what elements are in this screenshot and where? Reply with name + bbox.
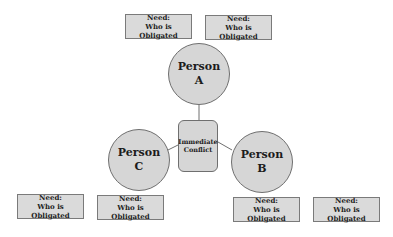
person-c-node: Person C [108, 129, 170, 191]
need-label: Need: [119, 194, 142, 203]
need-label: Need: [255, 196, 278, 205]
connector-b-conflict [218, 142, 232, 150]
person-label: Person [118, 146, 160, 160]
conflict-diagram: Need: Who is Obligated Need: Who is Obli… [0, 0, 393, 237]
person-id: C [135, 160, 144, 174]
person-id: A [195, 74, 204, 88]
need-box-b-left: Need: Who is Obligated [233, 197, 300, 222]
need-label: Need: [227, 14, 250, 23]
need-label: Need: [39, 193, 62, 202]
immediate-conflict-node: Immediate Conflict [178, 120, 218, 172]
need-label: Need: [147, 13, 170, 22]
person-b-node: Person B [231, 131, 293, 193]
obligated-label: Who is Obligated [18, 202, 83, 220]
need-box-b-right: Need: Who is Obligated [313, 197, 380, 222]
need-box-c-left: Need: Who is Obligated [17, 194, 84, 219]
person-label: Person [241, 148, 283, 162]
obligated-label: Who is Obligated [126, 22, 191, 40]
need-box-a-left: Need: Who is Obligated [125, 14, 192, 39]
need-box-c-right: Need: Who is Obligated [97, 195, 164, 220]
obligated-label: Who is Obligated [98, 203, 163, 221]
conflict-label-line1: Immediate [178, 138, 217, 146]
obligated-label: Who is Obligated [206, 23, 271, 41]
need-label: Need: [335, 196, 358, 205]
obligated-label: Who is Obligated [234, 205, 299, 223]
conflict-label-line2: Conflict [184, 146, 212, 154]
person-label: Person [178, 60, 220, 74]
person-a-node: Person A [168, 43, 230, 105]
person-id: B [257, 162, 266, 176]
obligated-label: Who is Obligated [314, 205, 379, 223]
connector-c-conflict [168, 145, 178, 150]
need-box-a-right: Need: Who is Obligated [205, 15, 272, 40]
